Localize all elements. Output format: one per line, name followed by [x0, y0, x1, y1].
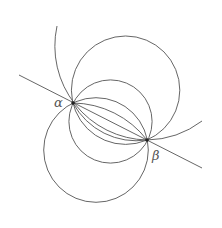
diagram-canvas: α β	[0, 0, 222, 228]
line-through-alpha-beta	[19, 75, 202, 168]
bottom-left-circle	[44, 98, 149, 203]
point-alpha	[71, 101, 75, 105]
long-arc	[55, 26, 202, 140]
label-beta: β	[152, 149, 160, 162]
top-circle	[71, 36, 179, 144]
label-alpha: α	[54, 96, 63, 109]
lower-lens-arc	[73, 103, 147, 141]
diagram-svg	[0, 0, 222, 228]
point-beta	[145, 138, 149, 142]
